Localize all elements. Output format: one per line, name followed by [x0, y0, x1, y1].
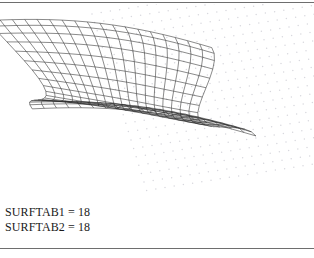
figure-container: SURFTAB1 = 18 SURFTAB2 = 18 — [0, 0, 314, 258]
caption-block: SURFTAB1 = 18 SURFTAB2 = 18 — [5, 205, 185, 235]
caption-surftab1: SURFTAB1 = 18 — [5, 205, 185, 220]
surface-mesh-lines — [0, 19, 256, 136]
top-rule — [0, 2, 314, 3]
surface-wireframe-canvas — [0, 4, 314, 206]
bottom-rule — [0, 248, 314, 249]
caption-surftab2: SURFTAB2 = 18 — [5, 220, 185, 235]
